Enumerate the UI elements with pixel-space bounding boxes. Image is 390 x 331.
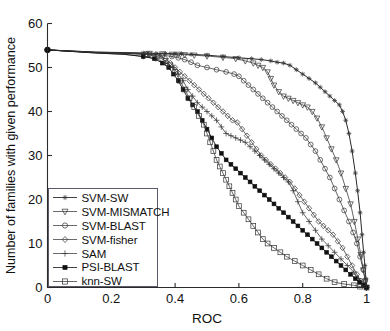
y-tick-label: 50	[28, 60, 42, 75]
legend-label: SVM-MISMATCH	[78, 206, 170, 218]
legend-item-knn-sw[interactable]: knn-SW	[52, 274, 157, 288]
legend-label: SAM	[78, 248, 107, 260]
marker-square-filled	[291, 220, 295, 224]
marker-square-filled	[229, 162, 233, 166]
marker-asterisk	[221, 54, 226, 59]
marker-asterisk	[275, 60, 280, 65]
legend-item-sam[interactable]: SAM	[52, 247, 157, 261]
marker-asterisk	[268, 59, 273, 64]
legend-item-svm-sw[interactable]: SVM-SW	[52, 191, 157, 205]
roc-figure: 00.20.40.60.810102030405060ROCNumber of …	[0, 0, 390, 331]
legend-label: knn-SW	[78, 275, 122, 287]
marker-square-filled	[234, 167, 238, 171]
x-tick-label: 0.2	[102, 291, 120, 306]
marker-square-filled	[239, 171, 243, 175]
marker-square-filled	[349, 272, 353, 276]
marker-asterisk	[307, 76, 312, 81]
marker-asterisk	[353, 171, 358, 176]
marker-asterisk	[205, 53, 210, 58]
marker-square-filled	[334, 259, 338, 263]
marker-square-filled	[320, 246, 324, 250]
marker-plus	[61, 250, 67, 256]
legend-item-svm-fisher[interactable]: SVM-fisher	[52, 233, 157, 247]
marker-asterisk	[259, 57, 264, 62]
marker-square-filled	[344, 268, 348, 272]
marker-asterisk	[62, 195, 67, 200]
marker-square-filled	[243, 176, 247, 180]
x-tick-label: 0	[44, 291, 51, 306]
marker-asterisk	[337, 103, 342, 108]
y-tick-label: 40	[28, 104, 42, 119]
marker-asterisk	[313, 81, 318, 86]
marker-square-filled	[267, 198, 271, 202]
marker-plus	[218, 124, 224, 130]
marker-asterisk	[327, 94, 332, 99]
legend-item-svm-mismatch[interactable]: SVM-MISMATCH	[52, 205, 157, 219]
marker-square-filled	[339, 264, 343, 268]
marker-asterisk	[249, 56, 254, 61]
marker-plus	[295, 199, 301, 205]
x-tick-label: 0.4	[166, 291, 184, 306]
legend-marker-triangle-down-icon	[52, 205, 78, 218]
legend-marker-asterisk-icon	[52, 191, 78, 204]
marker-asterisk	[358, 210, 363, 215]
x-axis-title: ROC	[192, 311, 222, 326]
y-tick-label: 20	[28, 192, 42, 207]
marker-asterisk	[343, 118, 348, 123]
y-tick-label: 60	[28, 16, 42, 31]
marker-square-filled	[301, 228, 305, 232]
marker-asterisk	[281, 61, 286, 66]
marker-square-filled	[248, 180, 252, 184]
marker-asterisk	[340, 109, 345, 114]
marker-square-filled	[330, 255, 334, 259]
legend-marker-square-open-icon	[52, 275, 78, 288]
x-tick-label: 0.8	[294, 291, 312, 306]
marker-asterisk	[347, 131, 352, 136]
marker-asterisk	[350, 149, 355, 154]
marker-square-filled	[310, 237, 314, 241]
series-markers	[140, 54, 369, 291]
marker-asterisk	[300, 72, 305, 77]
legend-label: PSI-BLAST	[78, 261, 140, 273]
marker-asterisk	[323, 89, 328, 94]
y-tick-label: 30	[28, 148, 42, 163]
marker-asterisk	[332, 98, 337, 103]
legend-marker-diamond-icon	[52, 233, 78, 246]
marker-asterisk	[318, 85, 323, 90]
y-tick-label: 0	[35, 280, 42, 295]
marker-square-filled	[253, 184, 257, 188]
marker-asterisk	[288, 63, 293, 68]
marker-asterisk	[355, 188, 360, 193]
marker-asterisk	[360, 232, 365, 237]
marker-square-filled	[277, 206, 281, 210]
marker-square-filled	[325, 250, 329, 254]
legend: SVM-SWSVM-MISMATCHSVM-BLASTSVM-fisherSAM…	[48, 188, 158, 287]
marker-square-filled	[215, 145, 219, 149]
legend-marker-square-filled-icon	[52, 261, 78, 274]
marker-triangle-down	[62, 210, 68, 216]
series-markers	[144, 52, 369, 290]
legend-label: SVM-SW	[78, 192, 129, 204]
marker-square-filled	[62, 265, 66, 269]
legend-item-psi-blast[interactable]: PSI-BLAST	[52, 260, 157, 274]
legend-label: SVM-BLAST	[78, 220, 146, 232]
legend-label: SVM-fisher	[78, 234, 138, 246]
legend-marker-plus-icon	[52, 247, 78, 260]
marker-square-filled	[263, 193, 267, 197]
y-tick-label: 10	[28, 236, 42, 251]
marker-plus	[313, 227, 319, 233]
legend-marker-circle-icon	[52, 219, 78, 232]
marker-square-filled	[210, 136, 214, 140]
marker-square-filled	[272, 202, 276, 206]
legend-item-svm-blast[interactable]: SVM-BLAST	[52, 219, 157, 233]
marker-square-filled	[315, 242, 319, 246]
y-axis-title: Number of families with given performanc…	[4, 37, 18, 274]
marker-square-filled	[224, 158, 228, 162]
series-markers	[147, 51, 370, 290]
marker-square-filled	[219, 151, 223, 155]
marker-square-filled	[353, 277, 357, 281]
marker-plus	[306, 219, 312, 225]
marker-square-filled	[258, 189, 262, 193]
marker-asterisk	[294, 67, 299, 72]
marker-square-filled	[282, 211, 286, 215]
